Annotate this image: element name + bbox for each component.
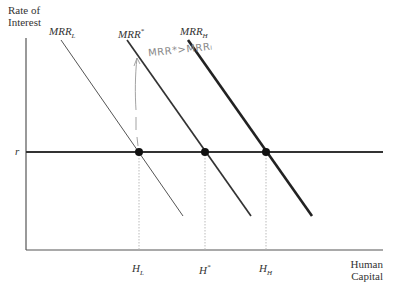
y-axis-label-line2: Interest (8, 16, 41, 28)
h-l-label: HL (132, 262, 144, 279)
x-axis-label-line1: Human (351, 258, 383, 270)
mrr-l-label-sub: L (72, 32, 76, 40)
mrr-h-label-sub: H (203, 32, 208, 40)
h-star-label: H* (199, 261, 210, 276)
h-star-label-sup: * (207, 263, 211, 271)
equilibrium-point-h-h (262, 148, 270, 156)
h-l-label-sub: L (140, 269, 144, 277)
mrr-l-label-base: MRR (49, 25, 72, 37)
h-star-label-base: H (199, 264, 207, 276)
equilibrium-point-h-l (135, 148, 143, 156)
h-l-label-base: H (132, 262, 140, 274)
y-axis-label-line1: Rate of (8, 4, 41, 16)
mrr-star-curve (127, 40, 251, 216)
mrr-l-label: MRRL (49, 25, 76, 42)
handwritten-dashed-line (135, 58, 138, 146)
y-axis-label: Rate of Interest (8, 4, 41, 28)
x-axis-label-line2: Capital (351, 270, 383, 282)
mrr-h-curve (188, 40, 312, 216)
mrr-l-curve (61, 40, 183, 216)
mrr-h-label: MRRH (180, 25, 208, 42)
x-axis-label: Human Capital (351, 258, 383, 282)
mrr-star-label: MRR* (118, 25, 144, 40)
h-h-label: HH (259, 262, 272, 279)
r-tick-label: r (15, 145, 19, 157)
mrr-h-label-base: MRR (180, 25, 203, 37)
h-h-label-base: H (259, 262, 267, 274)
equilibrium-point-h-star (201, 148, 209, 156)
h-h-label-sub: H (267, 269, 272, 277)
mrr-star-label-base: MRR (118, 28, 141, 40)
mrr-star-label-sup: * (141, 27, 145, 35)
